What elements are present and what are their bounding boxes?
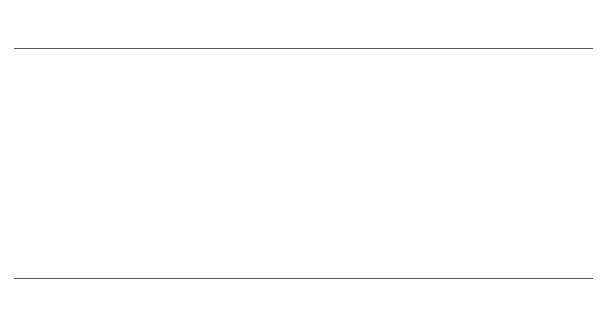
top-scale-axis (14, 48, 593, 49)
bottom-scale-axis (14, 278, 593, 279)
